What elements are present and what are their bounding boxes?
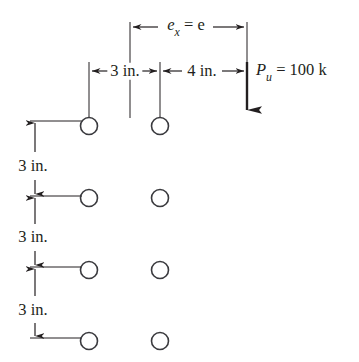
- load-magnitude: = 100 k: [276, 60, 327, 79]
- bolt-hole: [152, 333, 169, 350]
- dimension-label-3in-vertical-3: 3 in.: [15, 302, 50, 319]
- eccentricity-subscript: x: [175, 25, 180, 39]
- dimension-label-3in-vertical-1: 3 in.: [15, 158, 50, 175]
- bolt-hole: [81, 262, 98, 279]
- load-symbol: P: [256, 60, 266, 79]
- bolt-hole: [152, 190, 169, 207]
- bolt-hole: [152, 262, 169, 279]
- diagram-svg: [0, 0, 359, 362]
- dimension-label-3in-vertical-2: 3 in.: [15, 229, 50, 246]
- dimension-label-4in-horizontal: 4 in.: [184, 63, 219, 80]
- load-label: Pu = 100 k: [256, 62, 327, 82]
- bolt-group: [81, 118, 169, 350]
- eccentricity-label: ex = e: [164, 17, 208, 37]
- bolt-hole: [81, 190, 98, 207]
- bolt-hole: [81, 333, 98, 350]
- bolt-hole: [152, 118, 169, 135]
- dimension-label-3in-horizontal: 3 in.: [107, 63, 142, 80]
- bolt-hole: [81, 118, 98, 135]
- figure-canvas: ex = e 3 in. 4 in. Pu = 100 k 3 in. 3 in…: [0, 0, 359, 362]
- eccentricity-equals-value: = e: [184, 15, 205, 34]
- load-subscript: u: [266, 70, 272, 84]
